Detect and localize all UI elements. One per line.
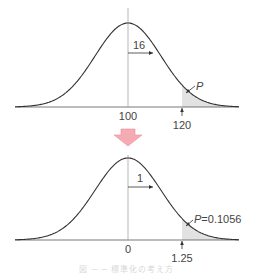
bottom-p-label: P=0.1056 xyxy=(194,213,241,225)
bottom-sd-label: 1 xyxy=(137,172,143,184)
top-bell-curve xyxy=(15,23,239,107)
top-cutoff-label: 120 xyxy=(173,119,191,131)
top-normal-chart: 16 P 100 120 xyxy=(15,8,239,131)
bottom-normal-chart: 1 P=0.1056 0 1.25 xyxy=(15,155,241,264)
top-p-label: P xyxy=(196,80,204,92)
bottom-cutoff-arrowhead-icon xyxy=(180,241,184,245)
figure-caption: 図 ─ ─ 標準化の考え方 xyxy=(0,263,254,274)
top-cutoff-arrowhead-icon xyxy=(180,108,184,112)
bottom-sd-arrowhead-icon xyxy=(149,185,153,189)
bottom-mean-label: 0 xyxy=(125,243,131,255)
top-sd-label: 16 xyxy=(133,39,145,51)
top-mean-label: 100 xyxy=(119,110,137,122)
bottom-bell-curve xyxy=(15,158,239,240)
transform-down-arrow-icon xyxy=(114,129,142,146)
top-sd-arrowhead-icon xyxy=(149,51,153,55)
standardization-diagram: 16 P 100 120 1 P=0.1056 0 1.25 xyxy=(0,0,254,274)
bottom-p-value: =0.1056 xyxy=(201,213,241,225)
